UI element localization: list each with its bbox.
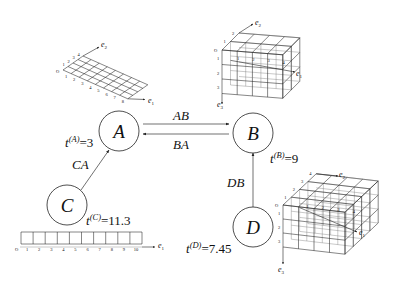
svg-text:4: 4 xyxy=(77,52,80,57)
grid-b-axis-e2: e2 xyxy=(255,18,262,28)
svg-text:2: 2 xyxy=(293,187,295,192)
svg-text:3: 3 xyxy=(301,179,304,184)
svg-text:1: 1 xyxy=(223,39,225,44)
svg-text:4: 4 xyxy=(62,247,65,252)
svg-text:1: 1 xyxy=(62,62,64,67)
node-a-time: t(A)=3 xyxy=(65,134,93,150)
node-b-label: B xyxy=(247,123,259,144)
svg-text:1: 1 xyxy=(306,204,308,209)
svg-text:7: 7 xyxy=(99,247,102,252)
edge-label-ba: BA xyxy=(173,137,189,152)
svg-text:6: 6 xyxy=(86,247,89,252)
svg-text:3: 3 xyxy=(278,239,281,244)
grid-d-axis-e2: e2 xyxy=(339,170,346,180)
svg-text:2: 2 xyxy=(73,77,75,82)
grid-c-ticks: 12345678910 xyxy=(26,247,139,252)
svg-text:10: 10 xyxy=(134,247,139,252)
grid-d-axis-e3: e3 xyxy=(278,265,285,275)
svg-text:1: 1 xyxy=(65,74,67,79)
svg-text:2: 2 xyxy=(217,71,219,76)
node-d[interactable]: D xyxy=(233,207,273,247)
edge-label-ca: CA xyxy=(72,157,89,172)
node-a[interactable]: A xyxy=(99,111,139,151)
svg-text:4: 4 xyxy=(309,171,312,176)
grid-b-3d xyxy=(222,24,300,104)
node-b[interactable]: B xyxy=(233,113,273,153)
grid-a-axis-e2: e2 xyxy=(101,40,108,50)
svg-text:3: 3 xyxy=(81,81,84,86)
svg-text:2: 2 xyxy=(38,247,40,252)
grid-d-origin-label: O xyxy=(275,203,279,208)
svg-text:3: 3 xyxy=(72,55,75,60)
node-c[interactable]: C xyxy=(47,185,87,225)
grid-a-axis-e1: e1 xyxy=(148,96,155,106)
grid-c-axis-e1: e1 xyxy=(158,241,165,251)
svg-text:4: 4 xyxy=(353,209,356,214)
node-b-time: t(B)=9 xyxy=(270,150,298,166)
node-d-time: t(D)=7.45 xyxy=(186,240,232,256)
svg-text:1: 1 xyxy=(237,56,239,61)
svg-text:8: 8 xyxy=(111,247,114,252)
svg-text:3: 3 xyxy=(217,85,220,90)
grid-c-1d xyxy=(20,232,155,247)
grid-d-axis-e1: e1 xyxy=(359,228,366,238)
svg-text:1: 1 xyxy=(284,195,286,200)
grid-b-axis-e3: e3 xyxy=(217,100,224,110)
svg-text:5: 5 xyxy=(74,247,77,252)
svg-text:2: 2 xyxy=(252,57,254,62)
svg-text:3: 3 xyxy=(50,247,53,252)
svg-text:2: 2 xyxy=(322,205,324,210)
svg-text:1: 1 xyxy=(26,247,28,252)
grid-d-3d xyxy=(283,174,378,264)
svg-text:7: 7 xyxy=(114,95,117,100)
grid-d-ticks: 12341234123 xyxy=(278,171,356,243)
node-d-label: D xyxy=(245,217,260,238)
svg-text:2: 2 xyxy=(278,225,280,230)
svg-text:1: 1 xyxy=(217,56,219,61)
edge-label-ab: AB xyxy=(172,108,189,123)
node-a-label: A xyxy=(111,121,125,142)
node-c-label: C xyxy=(61,195,74,216)
grid-b-origin-label: O xyxy=(214,48,218,53)
grid-b-axis-e1: e1 xyxy=(296,69,303,79)
svg-text:6: 6 xyxy=(105,92,108,97)
grid-c-origin-label: O xyxy=(15,247,19,252)
svg-text:8: 8 xyxy=(122,99,125,104)
svg-text:1: 1 xyxy=(278,211,280,216)
svg-text:5: 5 xyxy=(97,88,100,93)
diagram-canvas: O 123456781234 e2 e1 O 123412123 e2 e1 e… xyxy=(0,0,400,282)
svg-text:4: 4 xyxy=(89,85,92,90)
svg-text:2: 2 xyxy=(67,59,69,64)
grid-a-origin-label: O xyxy=(56,69,60,74)
node-c-time: t(C)=11.3 xyxy=(86,212,131,228)
svg-text:9: 9 xyxy=(123,247,126,252)
edge-label-db: DB xyxy=(226,175,244,190)
svg-text:2: 2 xyxy=(232,31,234,36)
